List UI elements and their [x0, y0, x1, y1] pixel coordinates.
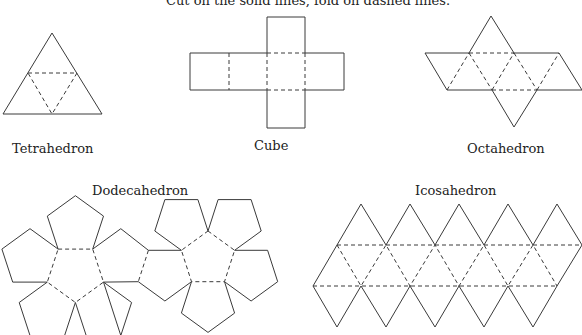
- cube-label: Cube: [254, 139, 288, 152]
- octahedron-net: [425, 16, 582, 127]
- polyhedra-nets-diagram: Cut on the solid lines, fold on dashed l…: [0, 0, 582, 335]
- icosahedron-net: [313, 204, 582, 327]
- dodecahedron-net: [2, 196, 278, 335]
- dodecahedron-label: Dodecahedron: [92, 184, 188, 197]
- tetrahedron-net: [3, 33, 102, 114]
- tetrahedron-label: Tetrahedron: [12, 142, 93, 155]
- cube-net: [190, 17, 344, 128]
- nets-canvas: [0, 0, 582, 335]
- octahedron-label: Octahedron: [467, 142, 545, 155]
- icosahedron-label: Icosahedron: [415, 184, 496, 197]
